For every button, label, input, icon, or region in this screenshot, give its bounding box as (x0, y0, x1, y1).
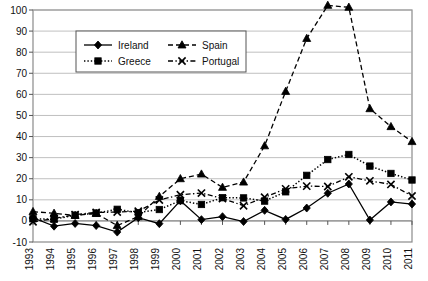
x-axis-tick-label: 2004 (256, 248, 267, 271)
marker-square (346, 151, 352, 157)
y-axis-tick-label: 90 (16, 26, 28, 37)
marker-square (156, 206, 162, 212)
legend-label-portugal: Portugal (202, 56, 239, 67)
x-axis-tick-label: 1999 (150, 248, 161, 271)
x-axis-tick-label: 1998 (129, 248, 140, 271)
x-axis-tick-label: 2002 (214, 248, 225, 271)
marker-square (304, 172, 310, 178)
y-axis-tick-label: 0 (21, 215, 27, 226)
marker-square (388, 170, 394, 176)
line-chart: -100102030405060708090100199319941995199… (0, 0, 428, 281)
x-axis-tick-label: 2009 (361, 248, 372, 271)
marker-square (198, 201, 204, 207)
x-axis-tick-label: 1997 (108, 248, 119, 271)
y-axis-tick-label: 70 (16, 68, 28, 79)
x-axis-tick-label: 1993 (24, 248, 35, 271)
x-axis-tick-label: 1995 (66, 248, 77, 271)
marker-triangle (324, 1, 332, 8)
marker-square (177, 197, 183, 203)
x-axis-tick-label: 1996 (87, 248, 98, 271)
y-axis-tick-label: 50 (16, 110, 28, 121)
legend-label-spain: Spain (202, 40, 228, 51)
y-axis-tick-label: 20 (16, 173, 28, 184)
x-axis-tick-label: 2008 (340, 248, 351, 271)
y-axis-tick-label: -10 (13, 237, 28, 248)
x-axis-tick-label: 2003 (235, 248, 246, 271)
y-axis-tick-label: 40 (16, 131, 28, 142)
marker-square (325, 156, 331, 162)
marker-square (409, 177, 415, 183)
y-axis-tick-label: 60 (16, 89, 28, 100)
x-axis-tick-label: 2010 (382, 248, 393, 271)
x-axis-tick-label: 2011 (403, 248, 414, 270)
marker-square (240, 195, 246, 201)
marker-square (367, 163, 373, 169)
x-axis-tick-label: 2005 (277, 248, 288, 271)
y-axis-tick-label: 80 (16, 47, 28, 58)
y-axis-tick-label: 10 (16, 194, 28, 205)
x-axis-tick-label: 1994 (45, 248, 56, 271)
x-axis-tick-label: 2007 (319, 248, 330, 271)
y-axis-tick-label: 100 (10, 5, 27, 16)
legend: IrelandSpainGreecePortugal (76, 31, 246, 72)
chart-canvas: -100102030405060708090100199319941995199… (0, 0, 428, 281)
marker-square (95, 58, 101, 64)
x-axis-tick-label: 2001 (192, 248, 203, 271)
legend-label-ireland: Ireland (118, 40, 149, 51)
x-axis-tick-label: 2000 (171, 248, 182, 271)
x-axis-tick-label: 2006 (298, 248, 309, 271)
y-axis-tick-label: 30 (16, 152, 28, 163)
legend-label-greece: Greece (118, 56, 151, 67)
